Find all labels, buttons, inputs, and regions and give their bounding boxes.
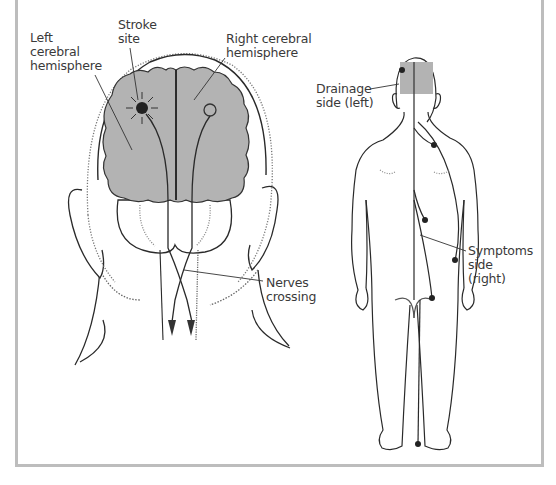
label-drainage-side: Drainage side (left)	[316, 82, 373, 110]
head-illustration	[69, 54, 291, 395]
label-symptoms-side: Symptoms side (right)	[468, 244, 533, 286]
leader-symptoms-side	[420, 235, 466, 251]
leader-drainage-side	[370, 84, 399, 89]
label-nerves-crossing: Nerves crossing	[266, 276, 316, 304]
stroke-site-dot	[136, 102, 148, 114]
right-ear	[248, 186, 278, 270]
cerebellum	[117, 200, 231, 253]
label-stroke-site: Stroke site	[118, 18, 157, 46]
leader-nerves-crossing	[184, 270, 263, 281]
label-left-cerebral-hemisphere: Left cerebral hemisphere	[30, 31, 102, 73]
right-hemisphere-marker	[204, 104, 216, 116]
label-right-cerebral-hemisphere: Right cerebral hemisphere	[226, 32, 311, 60]
body-illustration	[352, 58, 479, 450]
left-ear	[69, 189, 104, 278]
